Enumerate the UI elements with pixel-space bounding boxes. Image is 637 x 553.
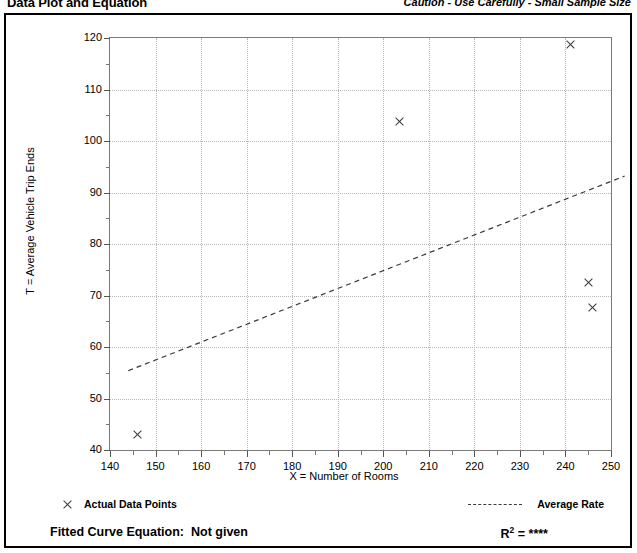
scatter-point (565, 39, 576, 50)
scatter-point (394, 116, 405, 127)
legend-item-average-rate: Average Rate (537, 498, 604, 510)
y-tick-label: 60 (42, 341, 102, 352)
chart-figure: T = Average Vehicle Trip Ends 1401501601… (6, 15, 634, 485)
y-tick-label: 80 (42, 238, 102, 249)
x-tick-minor (497, 451, 498, 455)
x-tick-minor (452, 451, 453, 455)
caution-note: Caution - Use Carefully - Small Sample S… (404, 0, 631, 8)
equation-row: Fitted Curve Equation: Not given R2 = **… (6, 523, 634, 547)
header-row: Data Plot and Equation Caution - Use Car… (0, 0, 637, 13)
scatter-point (587, 302, 598, 313)
y-tick (104, 450, 110, 451)
scatter-point (583, 277, 594, 288)
y-tick-label: 110 (42, 84, 102, 95)
r-squared-prefix: R (501, 527, 510, 541)
x-tick (247, 451, 248, 457)
y-tick-label: 40 (42, 444, 102, 455)
r-squared-number: = **** (514, 527, 548, 541)
y-axis-title: T = Average Vehicle Trip Ends (24, 121, 36, 321)
scatter-point (132, 429, 143, 440)
x-tick (429, 451, 430, 457)
x-tick-minor (224, 451, 225, 455)
y-tick-label: 100 (42, 135, 102, 146)
x-tick (201, 451, 202, 457)
x-tick-minor (588, 451, 589, 455)
y-tick-label: 50 (42, 393, 102, 404)
x-marker-icon (62, 499, 73, 510)
x-tick (611, 451, 612, 457)
page-title: Data Plot and Equation (7, 0, 147, 10)
x-tick-minor (315, 451, 316, 455)
plot-inner: 140150160170180190200210220230240250 405… (110, 38, 611, 450)
y-tick-label: 90 (42, 187, 102, 198)
x-axis-title: X = Number of Rooms (6, 470, 634, 482)
x-tick-minor (543, 451, 544, 455)
x-tick-minor (178, 451, 179, 455)
x-tick (156, 451, 157, 457)
x-tick-minor (361, 451, 362, 455)
x-tick (520, 451, 521, 457)
dashed-line-icon (468, 504, 522, 505)
x-tick (292, 451, 293, 457)
x-tick-minor (133, 451, 134, 455)
fitted-curve-equation: Fitted Curve Equation: Not given (50, 525, 248, 539)
x-tick (110, 451, 111, 457)
plot-area: 140150160170180190200210220230240250 405… (109, 37, 612, 451)
chart-panel: T = Average Vehicle Trip Ends 1401501601… (4, 13, 632, 548)
x-tick (565, 451, 566, 457)
x-tick-minor (269, 451, 270, 455)
x-tick (338, 451, 339, 457)
chart-legend: Actual Data Points Average Rate (6, 493, 634, 519)
y-tick-label: 120 (42, 32, 102, 43)
average-rate-trendline (110, 38, 611, 450)
x-tick (474, 451, 475, 457)
trendline-segment (128, 176, 624, 371)
r-squared-value: R2 = **** (501, 525, 548, 541)
x-tick-minor (406, 451, 407, 455)
y-tick-label: 70 (42, 290, 102, 301)
x-tick (383, 451, 384, 457)
legend-item-actual-data-points: Actual Data Points (84, 498, 177, 510)
